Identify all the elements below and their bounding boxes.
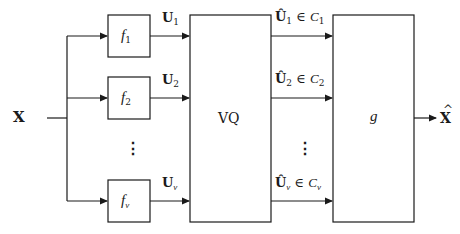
signal-symbol: U: [162, 72, 173, 87]
codebook-sub: 2: [319, 78, 325, 88]
quantized-sub: 1: [286, 16, 292, 26]
quantized-symbol: Û: [275, 175, 286, 190]
codebook-sub: ν: [317, 182, 321, 192]
codebook-symbol: C: [308, 175, 317, 190]
codebook-sub: 1: [319, 16, 325, 26]
quantized-symbol: Û: [275, 9, 286, 24]
output-label-xhat: ^ X: [439, 104, 455, 128]
quantized-label-1: Û1 ∈ C1: [275, 10, 324, 26]
signal-sub: 1: [173, 17, 179, 27]
signal-label-unu: Uν: [162, 176, 177, 192]
encoder-sub: ν: [125, 200, 129, 210]
ellipsis-left: ⋮: [125, 146, 141, 151]
ellipsis-right: ⋮: [297, 146, 313, 151]
element-of-symbol: ∈: [294, 175, 304, 190]
signal-sub: ν: [173, 182, 177, 192]
element-of-symbol: ∈: [296, 71, 306, 86]
decoder-label-g: g: [370, 109, 378, 124]
element-of-symbol: ∈: [296, 9, 306, 24]
signal-label-u2: U2: [162, 73, 179, 89]
quantized-sub: ν: [286, 182, 290, 192]
quantized-sub: 2: [286, 78, 292, 88]
quantized-label-2: Û2 ∈ C2: [275, 72, 324, 88]
input-label-x: X: [13, 110, 25, 125]
encoder-label-f1: f1: [121, 28, 131, 45]
signal-label-u1: U1: [162, 11, 179, 27]
vq-label: VQ: [218, 111, 240, 125]
signal-sub: 2: [173, 79, 179, 89]
output-symbol: X: [440, 111, 451, 125]
codebook-symbol: C: [310, 71, 319, 86]
signal-symbol: U: [162, 175, 173, 190]
codebook-symbol: C: [310, 9, 319, 24]
encoder-sub: 1: [125, 35, 131, 45]
signal-symbol: U: [162, 10, 173, 25]
encoder-label-fnu: fν: [121, 193, 129, 210]
encoder-sub: 2: [125, 97, 131, 107]
encoder-label-f2: f2: [121, 90, 131, 107]
quantized-symbol: Û: [275, 71, 286, 86]
quantized-label-nu: Ûν ∈ Cν: [275, 176, 321, 192]
